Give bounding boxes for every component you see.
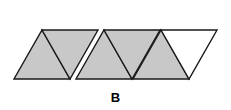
triangle-strip-figure: A B	[0, 0, 231, 110]
label-b: B	[0, 91, 231, 104]
